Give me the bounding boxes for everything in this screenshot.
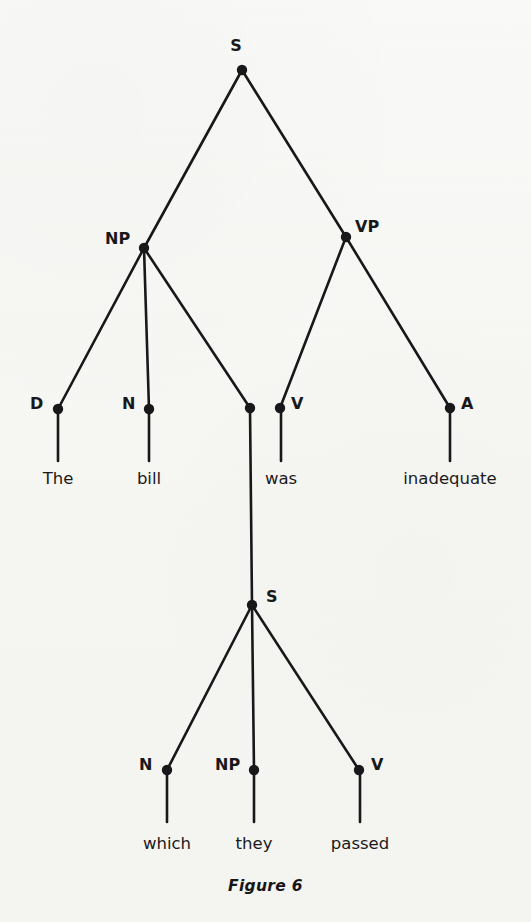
tree-node-dot-d1 — [53, 404, 63, 414]
figure-page: SNPVPDNVASNNPV Thebillwasinadequatewhich… — [0, 0, 531, 922]
node-label-s1: S — [230, 38, 242, 54]
node-label-a1: A — [461, 396, 474, 412]
tree-edge-vp1-v1 — [280, 237, 346, 408]
node-label-n1: N — [122, 396, 136, 412]
tree-edge-x1-s2 — [250, 408, 252, 605]
tree-edge-np1-d1 — [58, 248, 144, 409]
tree-node-dot-n2 — [162, 765, 172, 775]
node-label-vp1: VP — [355, 219, 380, 235]
tree-node-dot-np2 — [249, 765, 259, 775]
tree-edge-np1-n1 — [144, 248, 149, 409]
node-label-v2: V — [371, 757, 384, 773]
tree-node-dot-v2 — [354, 765, 364, 775]
node-label-d1: D — [30, 396, 43, 412]
terminal-word-inadequate: inadequate — [403, 471, 496, 488]
tree-node-dot-s1 — [237, 65, 247, 75]
node-label-np1: NP — [105, 231, 131, 247]
terminal-word-they: they — [236, 836, 273, 853]
syntax-tree-svg — [0, 0, 531, 922]
terminal-word-was: was — [265, 471, 297, 488]
tree-node-dot-s2 — [247, 600, 257, 610]
node-label-s2: S — [266, 589, 278, 605]
tree-edge-s2-n2 — [167, 605, 252, 770]
tree-node-dot-np1 — [139, 243, 149, 253]
tree-node-dot-x1 — [245, 403, 255, 413]
tree-edge-s1-np1 — [144, 70, 242, 248]
tree-edge-s2-v2 — [252, 605, 359, 770]
terminal-word-which: which — [143, 836, 191, 853]
node-label-v1: V — [291, 396, 304, 412]
terminal-word-the: The — [43, 471, 74, 488]
tree-node-dot-a1 — [445, 403, 455, 413]
terminal-word-passed: passed — [331, 836, 389, 853]
node-label-n2: N — [139, 757, 153, 773]
tree-node-dot-n1 — [144, 404, 154, 414]
tree-node-dot-v1 — [275, 403, 285, 413]
tree-node-dot-vp1 — [341, 232, 351, 242]
figure-caption: Figure 6 — [0, 879, 531, 895]
tree-edge-vp1-a1 — [346, 237, 450, 408]
tree-edge-s1-vp1 — [242, 70, 346, 237]
tree-edge-np1-x1 — [144, 248, 250, 408]
node-label-np2: NP — [215, 757, 241, 773]
tree-edges-group — [58, 70, 450, 770]
terminal-word-bill: bill — [137, 471, 161, 488]
tree-edge-s2-np2 — [252, 605, 254, 770]
